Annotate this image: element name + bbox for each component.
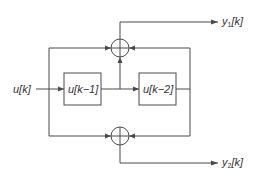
arrowhead: [105, 46, 111, 51]
arrowhead: [133, 87, 139, 92]
output-y2-index: [k]: [231, 156, 243, 168]
delay-block-1-label: u[k−1]: [68, 83, 98, 95]
arrowhead: [118, 57, 123, 63]
output-y1-label: y1[k]: [222, 15, 243, 31]
input-label: u[k]: [13, 83, 31, 95]
output-y1-index: [k]: [231, 15, 243, 27]
arrowhead: [211, 20, 218, 25]
sum-junction-bottom: [111, 127, 129, 145]
arrowhead: [129, 46, 135, 51]
arrowhead: [211, 161, 218, 166]
arrowhead: [105, 134, 111, 139]
sum-junction-top: [111, 39, 129, 57]
arrowhead: [129, 134, 135, 139]
arrowhead: [58, 87, 64, 92]
delay-block-2-label: u[k−2]: [143, 83, 173, 95]
output-y2-label: y2[k]: [222, 156, 243, 172]
block-diagram: [0, 0, 258, 178]
